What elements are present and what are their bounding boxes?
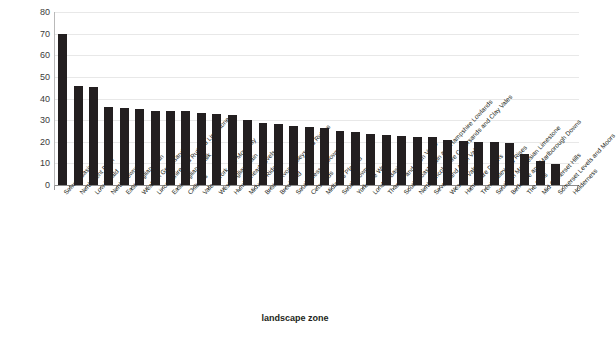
bar-slot [55, 12, 70, 185]
bar-slot [332, 12, 347, 185]
bar-slot [117, 12, 132, 185]
x-axis-title: landscape zone [0, 313, 590, 323]
bar-slot [132, 12, 147, 185]
bar-slot [394, 12, 409, 185]
bar-slot [363, 12, 378, 185]
x-axis-category-labels: Solway BasinNorth Kent PlainLow WealdNor… [54, 191, 578, 301]
y-axis-tick-label: 50 [24, 72, 50, 82]
y-axis-tick-label: 40 [24, 94, 50, 104]
bar-slot [471, 12, 486, 185]
bar-slot [209, 12, 224, 185]
bar-slot [271, 12, 286, 185]
y-axis-tick-label: 20 [24, 137, 50, 147]
y-axis-tick-label: 60 [24, 50, 50, 60]
x-axis-tick-mark [54, 186, 55, 190]
y-axis-tick-label: 10 [24, 158, 50, 168]
bar-slot [86, 12, 101, 185]
y-axis-tick-label: 0 [24, 180, 50, 190]
y-axis-tick-labels: 01020304050607080 [24, 0, 50, 195]
bar-slot [548, 12, 563, 185]
bar [58, 34, 67, 185]
bar-slot [70, 12, 85, 185]
y-axis-tick-label: 80 [24, 7, 50, 17]
bar-slot [302, 12, 317, 185]
y-axis-tick-label: 30 [24, 115, 50, 125]
y-axis-tick-label: 70 [24, 29, 50, 39]
